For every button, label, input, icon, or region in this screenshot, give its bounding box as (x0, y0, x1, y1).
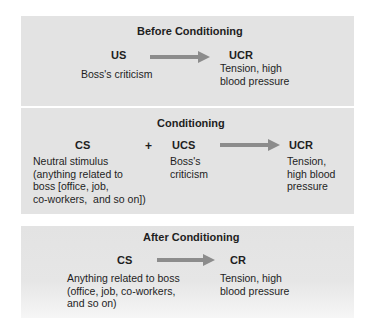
cs-description: Neutral stimulus (anything related to bo… (33, 155, 146, 205)
ucr-description: Tension, high blood pressure (220, 62, 289, 87)
ucr-term: UCR (289, 139, 313, 151)
cs-description: Anything related to boss (office, job, c… (67, 272, 180, 310)
us-term: US (111, 49, 126, 61)
cs-term: CS (117, 254, 132, 266)
cr-description: Tension, high blood pressure (220, 272, 289, 297)
ucs-term: UCS (172, 139, 195, 151)
plus-operator: + (145, 139, 152, 153)
panel-title: Conditioning (157, 117, 225, 129)
ucr-term: UCR (229, 49, 253, 61)
cr-term: CR (230, 254, 246, 266)
arrow-right-icon (157, 254, 217, 266)
panel-title: After Conditioning (143, 231, 240, 243)
panel-title: Before Conditioning (137, 25, 243, 37)
arrow-right-icon (150, 51, 210, 63)
cs-term: CS (75, 139, 90, 151)
ucr-description: Tension, high blood pressure (287, 155, 335, 193)
arrow-right-icon (220, 139, 280, 151)
ucs-description: Boss's criticism (170, 155, 208, 180)
us-description: Boss's criticism (81, 68, 152, 81)
